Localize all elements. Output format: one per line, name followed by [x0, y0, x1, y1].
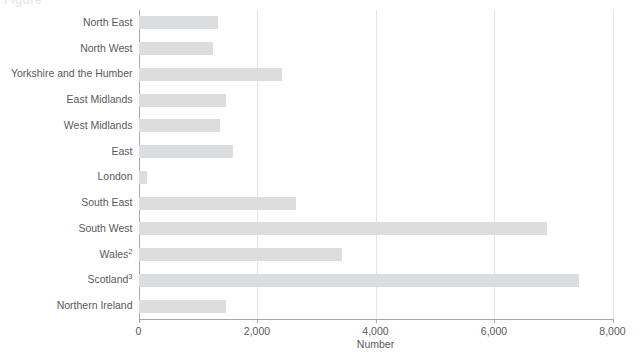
bar-row	[139, 139, 613, 165]
category-label: South East	[0, 196, 133, 208]
category-label: South West	[0, 222, 133, 234]
x-tick-label: 4,000	[362, 325, 388, 337]
x-tick-mark	[139, 319, 140, 323]
bar[interactable]	[139, 145, 233, 158]
x-axis-title: Number	[139, 338, 613, 350]
category-label: North West	[0, 42, 133, 54]
bar[interactable]	[139, 119, 220, 132]
x-tick-label: 8,000	[599, 325, 625, 337]
bar[interactable]	[139, 171, 147, 184]
bar-row	[139, 113, 613, 139]
category-label: Northern Ireland	[0, 299, 133, 311]
bar-row	[139, 293, 613, 319]
bar[interactable]	[139, 42, 213, 55]
bar-row	[139, 242, 613, 268]
chart-title: Figure	[4, 0, 42, 7]
category-label: East Midlands	[0, 93, 133, 105]
category-label: East	[0, 145, 133, 157]
bar-row	[139, 165, 613, 191]
bar-row	[139, 10, 613, 36]
x-tick-mark	[494, 319, 495, 323]
bar[interactable]	[139, 94, 226, 107]
bar[interactable]	[139, 222, 548, 235]
bar[interactable]	[139, 274, 579, 287]
plot-area	[139, 10, 613, 319]
x-tick-mark	[613, 319, 614, 323]
x-tick-label: 6,000	[481, 325, 507, 337]
bar-row	[139, 62, 613, 88]
x-tick-mark	[257, 319, 258, 323]
category-label: Scotland3	[0, 273, 133, 285]
bar[interactable]	[139, 16, 218, 29]
bar-row	[139, 190, 613, 216]
bar[interactable]	[139, 68, 283, 81]
x-tick-label: 2,000	[244, 325, 270, 337]
bar[interactable]	[139, 197, 296, 210]
category-label: West Midlands	[0, 119, 133, 131]
x-tick-mark	[376, 319, 377, 323]
x-tick-label: 0	[136, 325, 142, 337]
category-label: Yorkshire and the Humber	[0, 67, 133, 79]
bar-row	[139, 268, 613, 294]
category-label: Wales2	[0, 248, 133, 260]
category-label: London	[0, 170, 133, 182]
bar-row	[139, 216, 613, 242]
bar-row	[139, 87, 613, 113]
bar-chart: Figure 02,0004,0006,0008,000 Number Nort…	[0, 0, 642, 355]
bar[interactable]	[139, 248, 342, 261]
category-label: North East	[0, 16, 133, 28]
bar[interactable]	[139, 300, 227, 313]
gridline	[613, 10, 614, 319]
bar-row	[139, 36, 613, 62]
